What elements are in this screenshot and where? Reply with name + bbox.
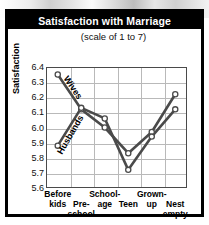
x-axis-tick-labels: BeforekidsPre-schoolSchool-ageTeenGrown-…: [46, 190, 198, 220]
data-point-wives-2: [102, 125, 107, 130]
y-tick-6.2: 6.2: [31, 93, 44, 102]
data-point-husbands-4: [149, 134, 154, 139]
plot-area: Satisfaction 6.46.36.26.16.05.95.85.75.6…: [8, 44, 201, 220]
data-point-husbands-3: [126, 167, 131, 172]
data-point-wives-5: [173, 92, 178, 97]
data-point-husbands-2: [102, 116, 107, 121]
data-point-husbands-1: [79, 105, 84, 110]
x-tick-nest-empty: Nestempty: [153, 200, 197, 219]
y-tick-6.3: 6.3: [31, 78, 44, 87]
y-axis-tick-labels: 6.46.36.26.16.05.95.85.75.6: [24, 64, 44, 188]
chart-subtitle: (scale of 1 to 7): [8, 29, 201, 44]
data-point-wives-0: [55, 72, 60, 77]
y-tick-6.4: 6.4: [31, 63, 44, 72]
y-tick-5.8: 5.8: [31, 153, 44, 162]
y-tick-6.1: 6.1: [31, 108, 44, 117]
y-tick-5.9: 5.9: [31, 138, 44, 147]
y-tick-5.7: 5.7: [31, 168, 44, 177]
chart-title: Satisfaction with Marriage: [38, 15, 171, 27]
y-tick-6.0: 6.0: [31, 123, 44, 132]
chart-card: Satisfaction with Marriage (scale of 1 t…: [5, 9, 204, 217]
data-point-wives-3: [126, 151, 131, 156]
data-point-husbands-5: [173, 107, 178, 112]
y-axis-title: Satisfaction: [11, 82, 21, 94]
chart-title-bar: Satisfaction with Marriage: [8, 12, 201, 29]
